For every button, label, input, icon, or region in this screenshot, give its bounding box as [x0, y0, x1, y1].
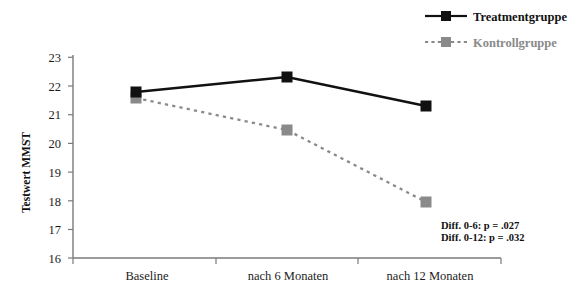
series-line-treatmentgruppe: [136, 77, 426, 106]
x-tick-label-baseline: Baseline: [125, 269, 168, 283]
series-markers-kontrollgruppe: [131, 93, 432, 208]
chart-container: 23 22 21 20 19 18 17 16 Testwert MMST Ba…: [0, 0, 586, 296]
data-point-treatment-6m: [282, 72, 293, 83]
legend-item-kontrollgruppe[interactable]: Kontrollgruppe: [425, 36, 557, 50]
y-axis-title: Testwert MMST: [20, 132, 32, 213]
x-tick-marks: [73, 258, 501, 264]
data-point-kontroll-12m: [421, 197, 432, 208]
legend-marker-treatmentgruppe: [441, 11, 451, 21]
series-line-kontrollgruppe: [136, 98, 426, 202]
annotation-diff-0-12: Diff. 0-12: p = .032: [441, 232, 525, 243]
significance-annotations: Diff. 0-6: p = .027 Diff. 0-12: p = .032: [441, 220, 525, 243]
x-tick-label-6-months: nach 6 Monaten: [248, 269, 329, 283]
y-tick-label-17: 17: [49, 223, 62, 237]
legend-marker-kontrollgruppe: [441, 37, 451, 47]
data-point-treatment-12m: [421, 101, 432, 112]
legend-item-treatmentgruppe[interactable]: Treatmentgruppe: [425, 10, 567, 24]
line-chart: 23 22 21 20 19 18 17 16 Testwert MMST Ba…: [0, 0, 586, 296]
legend-label-treatmentgruppe: Treatmentgruppe: [473, 10, 567, 24]
y-tick-label-18: 18: [49, 195, 62, 209]
data-point-kontroll-6m: [282, 125, 293, 136]
annotation-diff-0-6: Diff. 0-6: p = .027: [441, 220, 519, 231]
y-tick-label-21: 21: [49, 108, 62, 122]
y-tick-label-23: 23: [49, 51, 62, 65]
y-tick-label-19: 19: [49, 166, 62, 180]
legend-label-kontrollgruppe: Kontrollgruppe: [473, 36, 557, 50]
y-tick-label-16: 16: [49, 252, 62, 266]
data-point-treatment-baseline: [131, 87, 142, 98]
y-tick-marks: [68, 57, 73, 258]
y-tick-label-20: 20: [49, 137, 62, 151]
chart-legend: Treatmentgruppe Kontrollgruppe: [425, 10, 567, 50]
x-tick-label-12-months: nach 12 Monaten: [387, 269, 475, 283]
y-tick-label-22: 22: [49, 80, 62, 94]
